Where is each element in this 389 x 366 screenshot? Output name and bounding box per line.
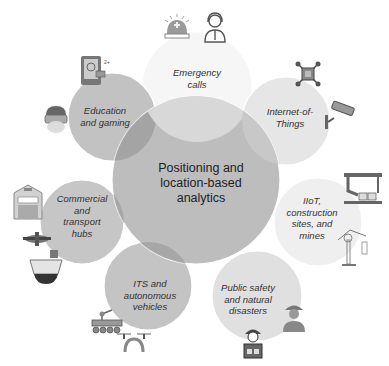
- label-line: and: [57, 205, 108, 217]
- vr-headset-icon: [45, 106, 67, 133]
- label-line: ITS and: [124, 278, 176, 290]
- call-operator-icon: [205, 13, 225, 42]
- label-line: and natural: [221, 293, 275, 305]
- label-line: sites, and: [286, 218, 337, 230]
- label-line: hubs: [57, 228, 108, 240]
- node-label-public-safety: Public safety and natural disasters: [221, 282, 275, 317]
- label-line: Public safety: [221, 282, 275, 294]
- warehouse-icon: [14, 185, 42, 219]
- label-line: IIoT,: [286, 195, 337, 207]
- center-label-line: location-based: [158, 176, 243, 191]
- quadcopter-drone-icon: [117, 334, 151, 352]
- node-label-education: Education and gaming: [80, 105, 130, 128]
- label-line: Internet-of-: [267, 106, 313, 118]
- center-label: Positioning and location-based analytics: [158, 161, 243, 206]
- cargo-ship-icon: [30, 250, 62, 284]
- firefighter-icon: [244, 330, 262, 359]
- node-label-iiot: IIoT, construction sites, and mines: [286, 195, 337, 241]
- label-line: vehicles: [124, 301, 176, 313]
- label-line: disasters: [221, 305, 275, 317]
- label-line: Commercial: [57, 193, 108, 205]
- label-line: calls: [173, 78, 221, 90]
- label-line: autonomous: [124, 289, 176, 301]
- node-label-its: ITS and autonomous vehicles: [124, 278, 176, 313]
- label-line: mines: [286, 230, 337, 242]
- svg-text:2+: 2+: [104, 59, 110, 65]
- center-label-line: Positioning and: [158, 161, 243, 176]
- center-label-line: analytics: [158, 191, 243, 206]
- label-line: Things: [267, 117, 313, 129]
- label-line: construction: [286, 207, 337, 219]
- node-label-commercial: Commercial and transport hubs: [57, 193, 108, 239]
- label-line: transport: [57, 216, 108, 228]
- label-line: Emergency: [173, 67, 221, 79]
- label-line: Education: [80, 105, 130, 117]
- node-label-emergency: Emergency calls: [173, 67, 221, 90]
- node-label-iot: Internet-of- Things: [267, 106, 313, 129]
- siren-icon: [165, 14, 189, 38]
- label-line: and gaming: [80, 116, 130, 128]
